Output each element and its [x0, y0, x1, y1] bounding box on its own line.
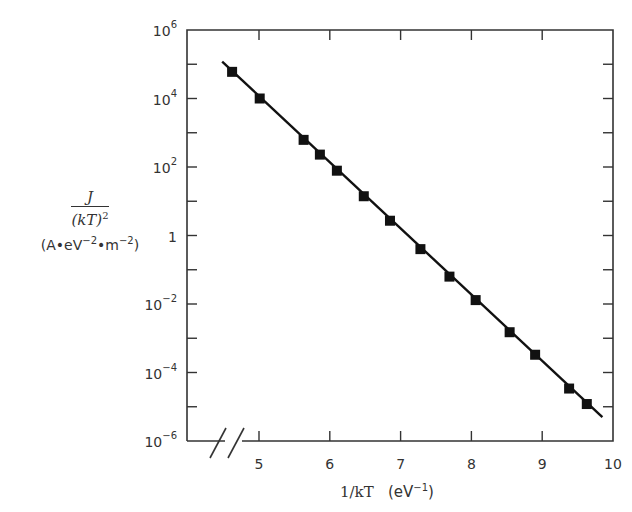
data-point-square	[315, 150, 325, 160]
x-units-part: )	[428, 483, 434, 501]
x-tick-label: 8	[467, 456, 476, 472]
data-point-square	[564, 384, 574, 394]
y-units-exp: −2	[119, 235, 134, 246]
data-point-square	[582, 399, 592, 409]
data-point-square	[332, 166, 342, 176]
y-axis-ticks: 106104102110−210−410−6	[144, 19, 613, 450]
y-tick-label: 104	[153, 88, 177, 108]
x-axis-label: 1/kT (eV−1)	[340, 482, 434, 501]
data-point-square	[359, 191, 369, 201]
y-tick-label: 102	[153, 156, 177, 176]
plot-area: 106104102110−210−410−6 5678910	[0, 0, 632, 512]
y-units-part: (A•eV	[41, 237, 83, 253]
data-point-square	[255, 94, 265, 104]
data-point-square	[227, 67, 237, 77]
x-tick-label: 6	[325, 456, 334, 472]
y-label-denominator-exp: 2	[102, 210, 108, 221]
y-axis-fraction: J (kT)2	[71, 188, 108, 229]
y-label-numerator: J	[71, 188, 108, 207]
x-axis-ticks: 5678910	[255, 30, 622, 472]
x-units-exp: −1	[413, 482, 428, 493]
data-point-square	[385, 216, 395, 226]
x-tick-label: 9	[538, 456, 547, 472]
data-point-square	[471, 295, 481, 305]
data-point-square	[444, 272, 454, 282]
y-units-part: •m	[97, 237, 119, 253]
data-point-square	[299, 135, 309, 145]
y-axis-units: (A•eV−2•m−2)	[0, 235, 180, 253]
y-tick-label: 10−6	[144, 430, 177, 450]
y-units-part: )	[134, 237, 139, 253]
axis-lines	[187, 30, 613, 441]
y-label-denominator: (kT)2	[71, 207, 108, 229]
fit-line	[222, 62, 602, 418]
y-tick-label: 106	[153, 19, 177, 39]
plot-frame	[187, 30, 613, 441]
x-tick-label: 10	[604, 456, 622, 472]
x-tick-label: 5	[255, 456, 264, 472]
x-units-part: (eV	[388, 483, 413, 501]
x-tick-label: 7	[396, 456, 405, 472]
fit-line-path	[222, 62, 602, 418]
data-point-square	[415, 244, 425, 254]
data-point-square	[505, 327, 515, 337]
y-tick-label: 10−2	[144, 293, 177, 313]
y-tick-label: 10−4	[144, 362, 177, 382]
x-label-variable: 1/kT	[340, 483, 374, 501]
y-axis-label: J (kT)2 (A•eV−2•m−2)	[0, 188, 180, 253]
data-point-square	[530, 350, 540, 360]
y-label-denominator-base: (kT)	[71, 211, 102, 229]
x-axis-break-icon	[210, 428, 244, 458]
y-units-exp: −2	[82, 235, 97, 246]
